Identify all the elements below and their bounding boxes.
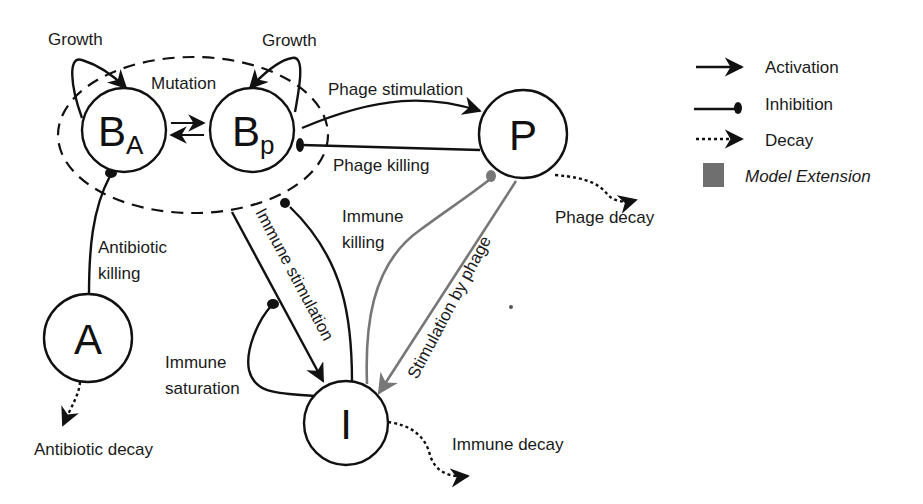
immune-inhibits-phage-head (486, 170, 496, 182)
node-a-label: A (74, 316, 102, 363)
growth-bp-label: Growth (262, 31, 317, 50)
legend-extension-label: Model Extension (745, 167, 871, 186)
phage-decay-arrow (555, 175, 636, 202)
node-i: I (304, 381, 388, 465)
immune-saturation-loop (248, 305, 314, 396)
immune-killing-label-1: Immune (342, 207, 403, 226)
node-p: P (479, 90, 567, 178)
growth-ba-label: Growth (48, 30, 103, 49)
legend-activation-label: Activation (765, 58, 839, 77)
node-i-label: I (340, 401, 352, 448)
stimulation-by-phage-label: Stimulation by phage (404, 233, 495, 382)
stray-dot (509, 305, 513, 309)
legend-inhibition-head (734, 102, 742, 114)
antibiotic-killing-label-2: killing (98, 264, 141, 283)
antibiotic-killing-label-1: Antibiotic (98, 238, 167, 257)
phage-killing-label: Phage killing (333, 156, 429, 175)
immune-killing-head (280, 198, 290, 208)
legend: Activation Inhibition Decay Model Extens… (694, 58, 871, 187)
node-p-label: P (509, 112, 537, 159)
node-a: A (44, 294, 132, 382)
immune-decay-label: Immune decay (452, 435, 564, 454)
antibiotic-decay-arrow (63, 382, 80, 425)
phage-immune-diagram: BA Bp P A I Growth Growth Mutation Phage… (0, 0, 923, 504)
immune-saturation-label-2: saturation (165, 379, 240, 398)
phage-stimulation-label: Phage stimulation (328, 80, 463, 99)
legend-decay-label: Decay (765, 131, 814, 150)
node-bp: Bp (210, 88, 294, 172)
phage-killing-head (296, 138, 304, 152)
node-ba: BA (82, 88, 166, 172)
legend-extension-swatch (703, 163, 724, 187)
immune-saturation-head (267, 299, 279, 309)
immune-saturation-label-1: Immune (165, 353, 226, 372)
phage-killing-line (302, 145, 480, 150)
mutation-label: Mutation (151, 74, 216, 93)
phage-stimulation-arrow (302, 101, 480, 128)
immune-killing-label-2: killing (342, 233, 385, 252)
phage-decay-label: Phage decay (555, 208, 655, 227)
antibiotic-decay-label: Antibiotic decay (34, 440, 154, 459)
legend-inhibition-label: Inhibition (765, 95, 833, 114)
